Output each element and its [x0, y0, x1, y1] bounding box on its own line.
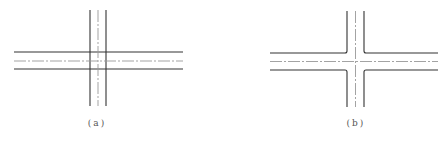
figure-a-label: (a) [88, 118, 106, 128]
road-edges-a [14, 10, 183, 106]
diagram-canvas: (a) (b) [0, 0, 445, 142]
figure-b [270, 11, 438, 107]
figure-a [14, 10, 183, 106]
road-intersection-diagrams [0, 0, 445, 142]
centerlines-a [14, 10, 183, 106]
road-edges-b [270, 11, 438, 107]
figure-b-label: (b) [347, 118, 366, 128]
centerlines-b [270, 11, 438, 107]
